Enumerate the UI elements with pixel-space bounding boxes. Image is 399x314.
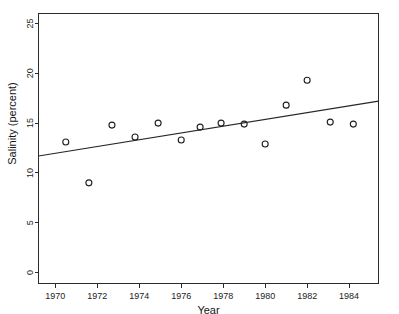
data-point: [350, 121, 356, 127]
x-tick-label: 1976: [171, 291, 191, 301]
salinity-vs-year-figure: 0510152025 19701972197419761978198019821…: [0, 0, 399, 314]
data-point: [218, 120, 224, 126]
x-tick-label: 1970: [45, 291, 65, 301]
x-tick-label: 1980: [255, 291, 275, 301]
x-axis-ticks: 19701972197419761978198019821984: [45, 284, 359, 301]
x-tick-label: 1978: [213, 291, 233, 301]
plot-frame: [39, 14, 379, 284]
y-axis-ticks: 0510152025: [26, 18, 39, 275]
data-point: [109, 122, 115, 128]
data-point: [63, 139, 69, 145]
data-points: [63, 77, 357, 186]
y-tick-label: 0: [26, 270, 36, 275]
data-point: [283, 102, 289, 108]
y-tick-label: 25: [26, 18, 36, 28]
scatter-plot-canvas: 0510152025 19701972197419761978198019821…: [0, 0, 399, 314]
data-point: [86, 180, 92, 186]
trend-line: [39, 101, 379, 156]
data-point: [155, 120, 161, 126]
y-tick-label: 5: [26, 220, 36, 225]
x-tick-label: 1982: [297, 291, 317, 301]
x-tick-label: 1974: [129, 291, 149, 301]
data-point: [262, 141, 268, 147]
y-tick-label: 20: [26, 68, 36, 78]
data-point: [197, 124, 203, 130]
y-tick-label: 15: [26, 118, 36, 128]
data-point: [178, 137, 184, 143]
data-point: [327, 119, 333, 125]
y-axis-title: Salinity (percent): [6, 82, 18, 165]
x-tick-label: 1984: [339, 291, 359, 301]
data-point: [241, 121, 247, 127]
data-point: [304, 77, 310, 83]
x-axis-title: Year: [197, 304, 220, 314]
data-point: [132, 134, 138, 140]
x-tick-label: 1972: [87, 291, 107, 301]
y-tick-label: 10: [26, 168, 36, 178]
